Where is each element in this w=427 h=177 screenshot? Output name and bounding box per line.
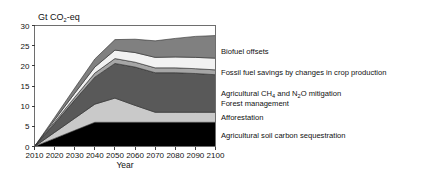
x-tick-label-2100: 2100 [207, 151, 225, 160]
x-axis-title: Year [116, 160, 133, 170]
y-axis-ticks: 051015202530 [21, 22, 35, 152]
legend-label-2: Agricultural CH4 and N2O mitigation [221, 89, 341, 99]
legend-label-5: Agricultural soil carbon sequestration [221, 131, 346, 140]
chart-figure: 051015202530 201020202030204020502060207… [0, 0, 427, 177]
y-tick-label-15: 15 [21, 82, 30, 91]
y-tick-label-30: 30 [21, 22, 30, 31]
stacked-area-chart: 051015202530 201020202030204020502060207… [0, 0, 427, 177]
legend-label-1: Fossil fuel savings by changes in crop p… [221, 68, 386, 77]
legend-label-4: Afforestation [221, 113, 264, 122]
x-tick-label-2010: 2010 [26, 151, 44, 160]
x-tick-label-2080: 2080 [166, 151, 184, 160]
y-tick-label-20: 20 [21, 62, 30, 71]
x-tick-label-2040: 2040 [86, 151, 104, 160]
x-tick-label-2090: 2090 [186, 151, 204, 160]
legend-label-0: Biofuel offsets [221, 47, 269, 56]
y-tick-label-25: 25 [21, 42, 30, 51]
x-tick-label-2050: 2050 [106, 151, 124, 160]
y-tick-label-10: 10 [21, 102, 30, 111]
x-axis-ticks: 2010202020302040205020602070208020902100 [26, 147, 225, 161]
x-tick-label-2020: 2020 [46, 151, 64, 160]
x-tick-label-2060: 2060 [126, 151, 144, 160]
legend-label-3: Forest management [221, 99, 290, 108]
x-tick-label-2070: 2070 [146, 151, 164, 160]
y-tick-label-5: 5 [25, 122, 30, 131]
x-tick-label-2030: 2030 [66, 151, 84, 160]
legend-group: Biofuel offsetsFossil fuel savings by ch… [221, 47, 386, 140]
y-axis-unit-label: Gt CO2-eq [38, 12, 80, 23]
